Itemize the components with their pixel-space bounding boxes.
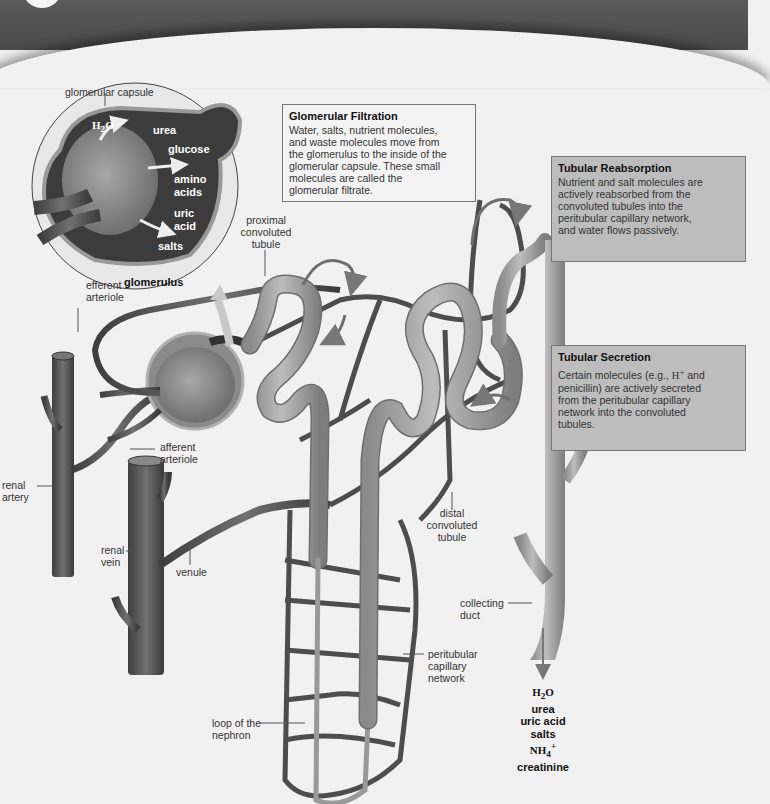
label-efferent-arteriole: efferent arteriole	[86, 279, 124, 303]
label-renal-artery: renal artery	[2, 479, 29, 503]
inset-glomerulus	[32, 83, 240, 289]
label-line: convoluted	[422, 519, 482, 531]
label-line: loop of the	[212, 717, 261, 729]
label-line: tubule	[422, 531, 482, 543]
label-line: proximal	[238, 214, 294, 226]
label-loop-of-nephron: loop of the nephron	[212, 717, 261, 741]
box-secretion-line: network into the convoluted	[558, 406, 739, 418]
inset-urea: urea	[153, 124, 176, 136]
box-secretion-line: from the peritubular capillary	[558, 394, 739, 406]
box-secretion-line: tubules.	[558, 418, 739, 430]
label-venule: venule	[176, 566, 207, 578]
label-line: efferent	[86, 279, 124, 291]
box-reabsorption-line: convoluted tubules into the	[558, 200, 739, 212]
box-filtration-line: glomerular capsule. These small	[289, 160, 469, 172]
box-secretion-title: Tubular Secretion	[558, 351, 739, 363]
label-proximal-convoluted-tubule: proximal convoluted tubule	[238, 214, 294, 250]
box-filtration-title: Glomerular Filtration	[289, 110, 469, 122]
box-reabsorption-title: Tubular Reabsorption	[558, 162, 739, 174]
box-tubular-secretion: Tubular Secretion Certain molecules (e.g…	[551, 345, 746, 451]
label-line: distal	[422, 507, 482, 519]
label-afferent-arteriole: afferent arteriole	[160, 441, 198, 465]
label-line: arteriole	[86, 291, 124, 303]
label-glomerular-capsule: glomerular capsule	[65, 86, 154, 98]
inset-acid: acid	[174, 220, 196, 232]
urine-item: H2O	[508, 686, 578, 703]
label-line: nephron	[212, 729, 261, 741]
box-secretion-line: penicillin) are actively secreted	[558, 382, 739, 394]
box-tubular-reabsorption: Tubular Reabsorption Nutrient and salt m…	[551, 156, 746, 262]
box-reabsorption-line: and water flows passively.	[558, 224, 739, 236]
urine-item: urea	[508, 703, 578, 716]
label-peritubular-capillary-network: peritubular capillary network	[428, 648, 478, 684]
label-line: afferent	[160, 441, 198, 453]
renal-vein-vessel	[115, 456, 330, 675]
inset-amino: amino	[174, 173, 206, 185]
label-line: tubule	[238, 238, 294, 250]
box-filtration-line: molecules are called the	[289, 172, 469, 184]
label-line: capillary	[428, 660, 478, 672]
urine-output-list: H2O urea uric acid salts NH4+ creatinine	[508, 686, 578, 773]
urine-item: NH4+	[508, 740, 578, 760]
collecting-duct-tube	[520, 240, 585, 672]
label-collecting-duct: collecting duct	[460, 597, 504, 621]
label-line: vein	[101, 556, 124, 568]
label-glomerulus: glomerulus	[124, 276, 183, 288]
filtration-arrowhead	[210, 285, 228, 300]
inset-water: H2O	[92, 119, 114, 135]
label-line: collecting	[460, 597, 504, 609]
box-filtration-line: the glomerulus to the inside of the	[289, 148, 469, 160]
label-line: network	[428, 672, 478, 684]
urine-item: salts	[508, 728, 578, 741]
urine-item: uric acid	[508, 715, 578, 728]
label-distal-convoluted-tubule: distal convoluted tubule	[422, 507, 482, 543]
label-line: duct	[460, 609, 504, 621]
box-reabsorption-line: peritubular capillary network,	[558, 212, 739, 224]
label-renal-vein: renal vein	[101, 544, 124, 568]
box-filtration-line: and waste molecules move from	[289, 136, 469, 148]
inset-glucose: glucose	[168, 143, 210, 155]
inset-salts: salts	[158, 240, 183, 252]
label-line: convoluted	[238, 226, 294, 238]
box-glomerular-filtration: Glomerular Filtration Water, salts, nutr…	[282, 104, 476, 202]
box-secretion-line: Certain molecules (e.g., H+ and	[558, 365, 739, 382]
label-line: renal	[2, 479, 29, 491]
box-reabsorption-line: actively reabsorbed from the	[558, 188, 739, 200]
label-line: renal	[101, 544, 124, 556]
box-filtration-line: Water, salts, nutrient molecules,	[289, 124, 469, 136]
box-reabsorption-line: Nutrient and salt molecules are	[558, 176, 739, 188]
urine-item: creatinine	[508, 761, 578, 774]
inset-acids: acids	[174, 186, 202, 198]
label-line: artery	[2, 491, 29, 503]
label-line: arteriole	[160, 453, 198, 465]
box-filtration-line: glomerular filtrate.	[289, 184, 469, 196]
inset-uric: uric	[174, 207, 194, 219]
label-line: peritubular	[428, 648, 478, 660]
